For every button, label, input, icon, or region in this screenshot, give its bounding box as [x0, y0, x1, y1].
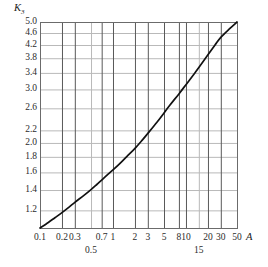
y-tick-label-10: 1.6 [15, 167, 37, 177]
y-tick-label-4: 3.4 [15, 68, 37, 78]
y-axis-title-text: K [14, 2, 21, 13]
chart-figure: K3 A 5.04.64.23.83.43.02.62.22.01.81.61.… [0, 0, 268, 267]
y-tick-label-2: 4.2 [15, 40, 37, 50]
x-tick-label-10: 10 [176, 233, 196, 243]
vertical-gridlines [41, 22, 238, 228]
x-tick-label-5: 1 [103, 233, 123, 243]
y-tick-label-6: 2.6 [15, 103, 37, 113]
chart-plot-area [0, 0, 268, 267]
y-axis-title-subscript: 3 [21, 8, 25, 16]
y-tick-label-1: 4.6 [15, 28, 37, 38]
x-tick-label-0: 0.1 [30, 233, 50, 243]
x-tick-label-14: 50 [227, 233, 247, 243]
y-tick-label-5: 3.0 [15, 84, 37, 94]
y-tick-label-8: 2.0 [15, 138, 37, 148]
y-tick-label-11: 1.4 [15, 185, 37, 195]
x-tick-label-2: 0.3 [65, 233, 85, 243]
y-axis-title: K3 [14, 3, 25, 16]
y-tick-label-0: 5.0 [15, 17, 37, 27]
data-curve [40, 22, 237, 228]
y-tick-label-9: 1.8 [15, 152, 37, 162]
horizontal-gridlines [40, 23, 237, 211]
y-tick-label-12: 1.2 [15, 205, 37, 215]
x-tick-label-3: 0.5 [81, 246, 101, 256]
y-tick-label-3: 3.8 [15, 53, 37, 63]
x-tick-label-11: 15 [189, 246, 209, 256]
y-tick-label-7: 2.2 [15, 125, 37, 135]
series-line-k3 [40, 22, 237, 228]
